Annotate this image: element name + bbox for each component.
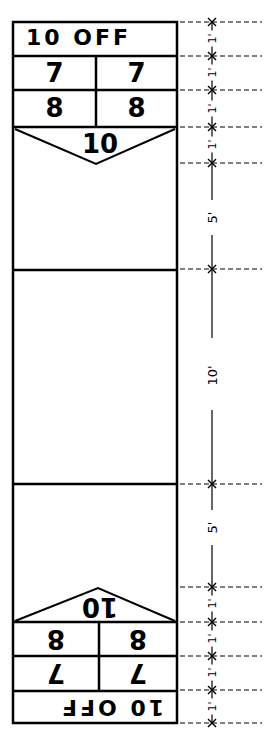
top-8-right-label: 8 — [96, 95, 177, 121]
top-7-left-label: 7 — [13, 60, 96, 86]
dimension-extension-lines — [180, 22, 262, 723]
top-7-right-label: 7 — [96, 60, 177, 86]
dim-bottom-7: 1' — [206, 665, 219, 681]
dim-bottom-triangle: 1' — [206, 596, 219, 612]
bottom-7-right-label: 7 — [99, 660, 177, 686]
dim-top-7: 1' — [206, 65, 219, 81]
dim-bottom-off: 1' — [206, 699, 219, 715]
dim-upper-zone: 5' — [205, 210, 220, 226]
dim-top-8: 1' — [206, 101, 219, 117]
dim-center-zone: 10' — [205, 366, 220, 386]
bottom-8-left-label: 8 — [13, 626, 99, 652]
bottom-8-right-label: 8 — [99, 626, 177, 652]
court-diagram: 10 OFF 7 7 8 8 10 10 8 8 7 7 10 OFF 1' 1… — [0, 0, 264, 744]
bottom-7-left-label: 7 — [13, 660, 99, 686]
top-8-left-label: 8 — [13, 95, 96, 121]
dim-top-off: 1' — [206, 31, 219, 47]
dim-lower-zone: 5' — [205, 520, 220, 536]
bottom-off-label: 10 OFF — [24, 696, 164, 718]
top-off-label: 10 OFF — [26, 27, 166, 49]
bottom-10-label: 10 — [60, 594, 140, 620]
dim-top-triangle: 1' — [206, 137, 219, 153]
top-10-label: 10 — [60, 131, 140, 157]
dim-bottom-8: 1' — [206, 631, 219, 647]
